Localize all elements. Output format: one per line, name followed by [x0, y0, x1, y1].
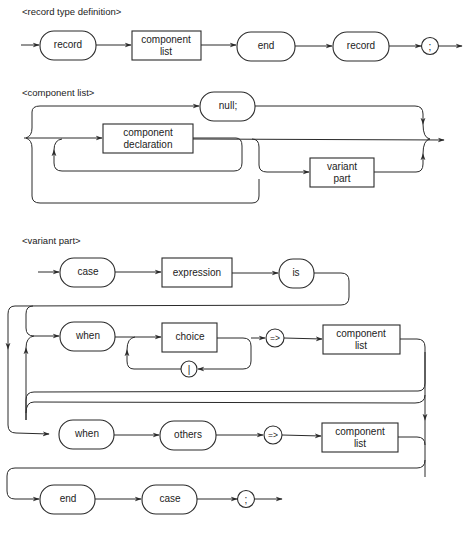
svg-text:;: ;: [245, 494, 248, 505]
terminal-null: null;: [200, 92, 255, 121]
svg-text:others: others: [174, 429, 202, 440]
nonterminal-component-list: component list: [132, 31, 201, 60]
symbol-semicolon-2: ;: [238, 491, 255, 508]
symbol-semicolon: ;: [422, 38, 439, 55]
svg-text:end: end: [258, 40, 275, 51]
diagram-title: <component list>: [22, 87, 95, 98]
nonterminal-variant-part: variant part: [310, 158, 374, 187]
nonterminal-choice: choice: [162, 323, 217, 352]
terminal-end: end: [237, 32, 295, 61]
terminal-when: when: [60, 322, 115, 351]
svg-text:null;: null;: [219, 100, 237, 111]
terminal-case-2: case: [142, 485, 197, 514]
svg-text:list: list: [355, 340, 367, 351]
nonterminal-component-list-2: component list: [322, 423, 398, 452]
svg-text:part: part: [333, 173, 350, 184]
svg-text:choice: choice: [176, 331, 205, 342]
svg-text:end: end: [60, 493, 77, 504]
svg-text:component: component: [335, 426, 385, 437]
nonterminal-component-declaration: component declaration: [103, 124, 193, 153]
svg-text:variant: variant: [327, 161, 357, 172]
terminal-case: case: [60, 258, 115, 287]
svg-text:record: record: [347, 40, 375, 51]
svg-text:case: case: [159, 493, 181, 504]
diagram-title: <variant part>: [22, 235, 81, 246]
svg-text:case: case: [77, 266, 99, 277]
svg-text:|: |: [188, 364, 191, 375]
diagram-title: <record type definition>: [22, 6, 122, 17]
svg-text:when: when: [74, 428, 99, 439]
svg-text:is: is: [292, 267, 299, 278]
symbol-bar: |: [181, 361, 197, 377]
svg-text:=>: =>: [270, 333, 280, 343]
nonterminal-component-list-1: component list: [323, 325, 400, 354]
terminal-when-2: when: [59, 420, 114, 449]
svg-text:list: list: [160, 46, 172, 57]
terminal-end: end: [40, 485, 95, 514]
symbol-arrow-2: =>: [264, 426, 282, 444]
svg-text:when: when: [75, 330, 100, 341]
component-list-diagram: <component list> null; component declara…: [22, 87, 444, 203]
record-type-definition-diagram: <record type definition> record componen…: [21, 6, 462, 61]
terminal-is: is: [279, 259, 314, 288]
svg-text:expression: expression: [173, 267, 221, 278]
terminal-record: record: [40, 31, 96, 60]
svg-text:component: component: [336, 328, 386, 339]
terminal-record-2: record: [333, 32, 389, 61]
variant-part-diagram: <variant part> case expression is when: [7, 235, 425, 514]
svg-text:=>: =>: [268, 430, 278, 440]
nonterminal-expression: expression: [162, 258, 232, 287]
syntax-diagrams: <record type definition> record componen…: [0, 0, 466, 534]
svg-text:;: ;: [429, 41, 432, 52]
svg-text:list: list: [354, 438, 366, 449]
terminal-others: others: [160, 421, 216, 450]
symbol-arrow-1: =>: [266, 329, 284, 347]
svg-text:declaration: declaration: [124, 139, 173, 150]
svg-text:record: record: [54, 39, 82, 50]
svg-text:component: component: [123, 127, 173, 138]
svg-text:component: component: [141, 34, 191, 45]
